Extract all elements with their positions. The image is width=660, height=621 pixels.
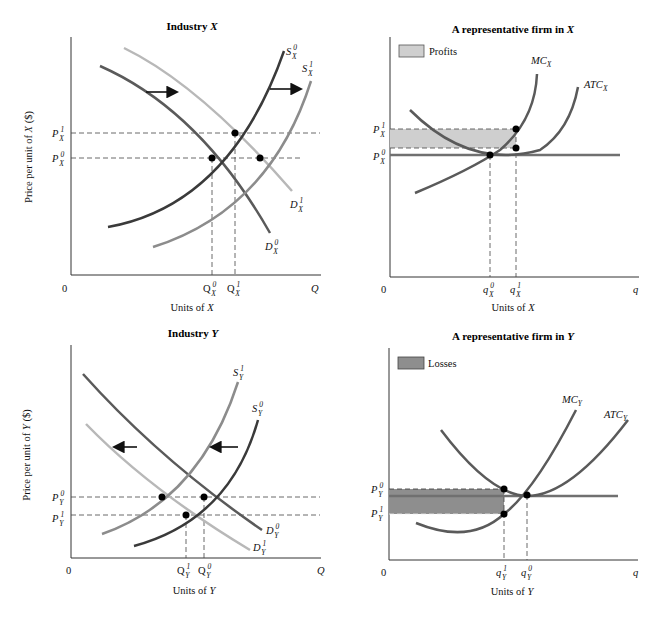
label-atc-y: ATCY — [603, 409, 628, 423]
label-atc-x: ATCX — [583, 79, 608, 93]
x-axis-label: Units of X — [170, 302, 214, 313]
panel-title: Industry Y — [168, 327, 220, 339]
label-q1-y: q1Y — [496, 564, 507, 582]
legend-swatch-profits — [399, 45, 424, 57]
panel-title: A representative firm in Y — [452, 330, 575, 342]
label-q1-x: q1X — [510, 281, 521, 299]
panel-industry-x: Industry X P1X P0X Q0X Q1X 0 Q Units of … — [23, 20, 321, 313]
label-s0-x: S0X — [286, 43, 297, 61]
equilibrium-point — [159, 494, 166, 501]
label-q0-x: q0X — [483, 281, 494, 299]
label-p0-y: P0Y — [51, 489, 64, 507]
label-s1-y: S1Y — [233, 364, 244, 382]
label-p1-x: P1X — [372, 121, 385, 139]
panel-firm-y: A representative firm in Y Losses P0Y P1… — [370, 330, 638, 597]
label-p0-y: P0Y — [370, 481, 383, 499]
equilibrium-point — [209, 155, 216, 162]
label-p0-x: P0X — [372, 148, 385, 166]
point — [513, 145, 520, 152]
label-d0-y: D0Y — [265, 522, 280, 540]
y-axis-label: Price per unit of X ($) — [23, 111, 35, 203]
x-end-label: Q — [317, 565, 325, 576]
curve-s0-x — [108, 51, 284, 227]
origin-label: 0 — [62, 283, 67, 294]
loss-area — [389, 489, 504, 514]
label-d1-y: D1Y — [252, 539, 266, 557]
label-mc-x: MCX — [530, 55, 552, 69]
x-end-label: Q — [311, 283, 319, 294]
x-end-label: q — [633, 284, 638, 295]
curve-atc-y — [441, 420, 628, 496]
x-axis-label: Units of Y — [491, 586, 535, 597]
label-q0-y: Q0Y — [198, 562, 212, 580]
label-d1-x: D1X — [289, 196, 303, 214]
origin-label: 0 — [66, 565, 71, 576]
panel-title: Industry X — [166, 20, 218, 32]
curve-d0-x — [100, 66, 270, 233]
x-axis-label: Units of Y — [173, 585, 217, 596]
point — [513, 126, 520, 133]
label-p1-y: P1Y — [370, 505, 383, 523]
x-axis-label: Units of X — [491, 302, 535, 313]
equilibrium-point — [201, 494, 208, 501]
equilibrium-point — [183, 512, 190, 519]
legend-label-losses: Losses — [428, 358, 457, 369]
point — [501, 486, 508, 493]
panel-industry-y: Industry Y P0Y P1Y Q1Y Q0Y 0 Q Units of … — [21, 327, 325, 596]
label-q0-x: Q0X — [203, 280, 217, 298]
legend-label-profits: Profits — [429, 46, 457, 57]
equilibrium-point — [232, 130, 239, 137]
label-d0-x: D0X — [264, 238, 279, 256]
panel-title: A representative firm in X — [452, 23, 575, 35]
origin-label: 0 — [381, 284, 386, 295]
label-p1-y: P1Y — [51, 510, 64, 528]
label-s0-y: S0Y — [252, 400, 263, 418]
figure: Industry X P1X P0X Q0X Q1X 0 Q Units of … — [0, 0, 660, 621]
label-q1-x: Q1X — [227, 280, 240, 298]
point — [501, 511, 508, 518]
profit-area — [390, 129, 516, 148]
label-p1-x: P1X — [51, 125, 64, 143]
curve-d0-y — [83, 374, 262, 530]
point — [487, 152, 494, 159]
point — [524, 492, 531, 499]
curve-s1-x — [153, 81, 311, 247]
label-s1-x: S1X — [302, 60, 313, 78]
equilibrium-point — [257, 155, 264, 162]
label-p0-x: P0X — [51, 150, 64, 168]
panel-firm-x: A representative firm in X Profits P1X P… — [372, 23, 639, 313]
x-end-label: q — [633, 567, 638, 578]
label-q1-y: Q1Y — [177, 562, 190, 580]
label-mc-y: MCY — [561, 394, 583, 408]
label-q0-y: q0Y — [521, 564, 532, 582]
y-axis-label: Price per unit of Y ($) — [21, 409, 33, 501]
legend-swatch-losses — [398, 357, 424, 369]
origin-label: 0 — [381, 567, 386, 578]
